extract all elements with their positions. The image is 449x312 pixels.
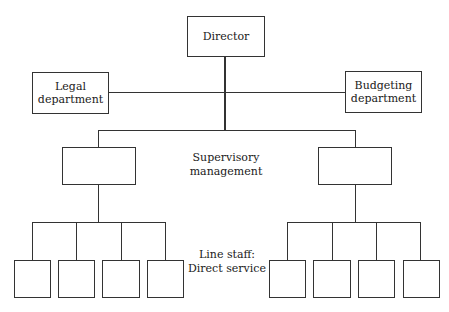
- line-staff-left-box-2: [58, 260, 95, 298]
- budgeting-department-label-line-2: department: [351, 92, 416, 105]
- right-subtree-stem-line: [355, 184, 356, 222]
- line-staff-right-box-3: [358, 260, 395, 298]
- director-box: Director: [187, 16, 265, 57]
- budgeting-department-box: Budgeting department: [345, 71, 422, 113]
- supervisory-left-box: [62, 147, 136, 185]
- line-staff-left-box-1: [14, 260, 51, 298]
- supervisory-branch-line: [98, 130, 356, 131]
- line-staff-label-line-2: Direct service: [186, 262, 268, 276]
- right-staff-drop-line-1: [287, 222, 288, 260]
- line-staff-label: Line staff: Direct service: [186, 248, 268, 276]
- right-staff-drop-line-4: [420, 222, 421, 260]
- right-staff-drop-line-2: [332, 222, 333, 260]
- line-staff-label-line-1: Line staff:: [186, 248, 268, 262]
- director-trunk-line: [224, 57, 226, 131]
- budgeting-department-label-line-1: Budgeting: [355, 79, 413, 92]
- supervisory-right-drop-line: [355, 130, 356, 147]
- staff-departments-line: [108, 92, 345, 93]
- left-subtree-stem-line: [98, 184, 99, 222]
- right-staff-drop-line-3: [376, 222, 377, 260]
- line-staff-right-box-1: [269, 260, 306, 298]
- supervisory-left-drop-line: [98, 130, 99, 147]
- left-staff-drop-line-1: [32, 222, 33, 260]
- supervisory-label-line-2: management: [176, 165, 276, 179]
- right-subtree-branch-line: [287, 222, 421, 223]
- supervisory-management-label: Supervisory management: [176, 151, 276, 179]
- left-staff-drop-line-2: [76, 222, 77, 260]
- line-staff-left-box-4: [147, 260, 184, 298]
- legal-department-box: Legal department: [32, 72, 109, 114]
- line-staff-left-box-3: [102, 260, 140, 298]
- left-staff-drop-line-4: [165, 222, 166, 260]
- director-label: Director: [203, 30, 250, 43]
- supervisory-label-line-1: Supervisory: [176, 151, 276, 165]
- legal-department-label-line-2: department: [38, 93, 103, 106]
- line-staff-right-box-4: [403, 260, 440, 298]
- supervisory-right-box: [318, 147, 392, 185]
- legal-department-label-line-1: Legal: [55, 80, 86, 93]
- line-staff-right-box-2: [313, 260, 351, 298]
- left-subtree-branch-line: [32, 222, 166, 223]
- left-staff-drop-line-3: [121, 222, 122, 260]
- org-chart: Director Legal department Budgeting depa…: [0, 0, 449, 312]
